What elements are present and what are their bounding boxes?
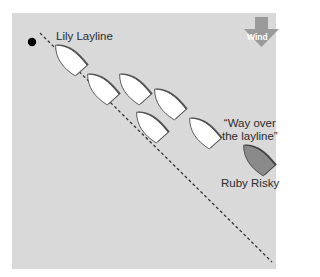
ruby-risky-label: Ruby Risky — [221, 177, 279, 190]
way-over-line-1: “Way over — [222, 117, 278, 130]
boat-icon — [113, 66, 152, 107]
way-over-line-2: the layline” — [222, 130, 278, 143]
way-over-layline-label: “Way over the layline” — [222, 117, 278, 143]
lily-layline-label: Lily Layline — [56, 30, 113, 43]
boat-icon — [81, 66, 120, 107]
risky-boat-icon — [237, 137, 276, 178]
wind-label: Wind — [247, 31, 268, 44]
boat-icon — [148, 81, 187, 122]
boat-icon — [183, 110, 222, 151]
mark-icon — [28, 38, 36, 46]
boat-icon — [49, 37, 88, 78]
